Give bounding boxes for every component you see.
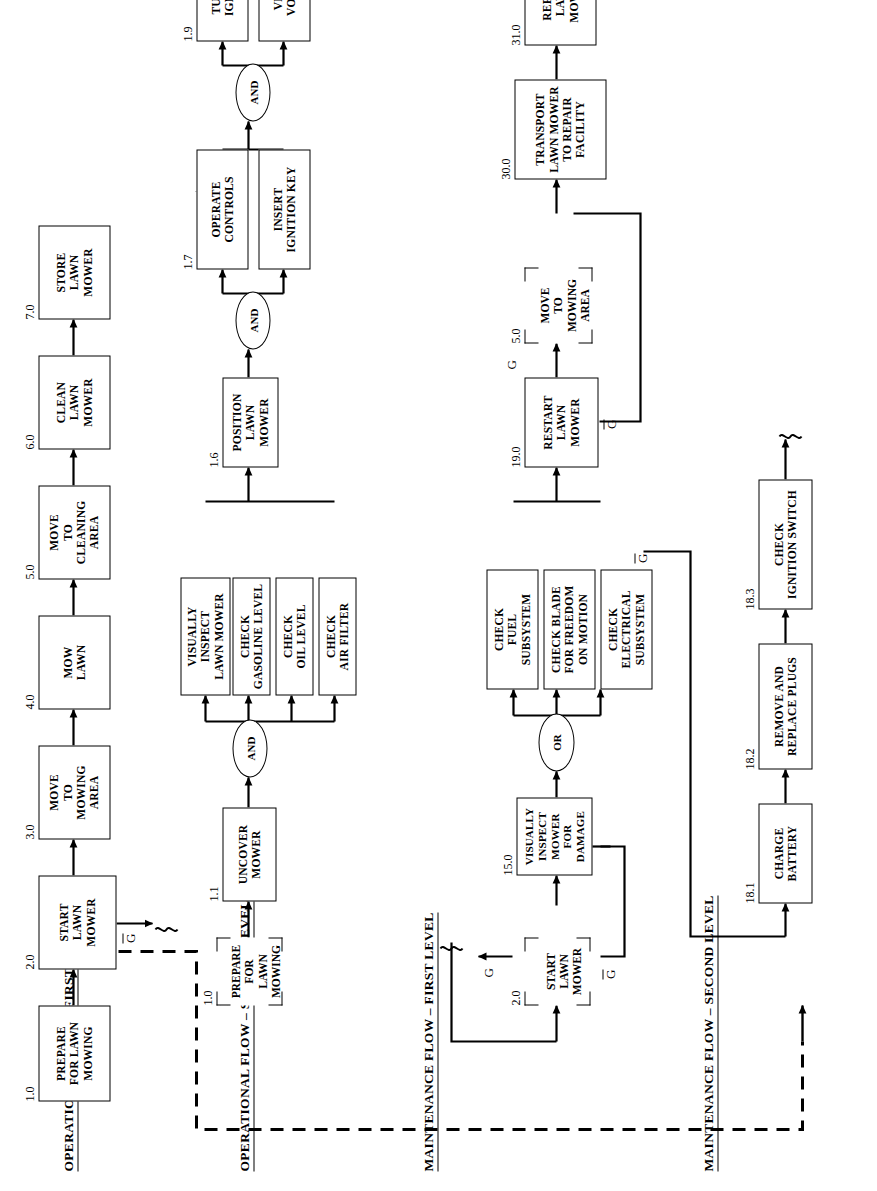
block-text: INSERT IGNITION KEY bbox=[271, 166, 298, 252]
logic-gate-and-3: AND bbox=[235, 63, 270, 121]
block-text: REPAIR LAWN MOWER bbox=[540, 0, 580, 22]
block-text: RESTART LAWN MOWER bbox=[541, 395, 581, 449]
block-check-gasoline-level: CHECK GASOLINE LEVEL bbox=[232, 577, 270, 695]
block-number-1-0: 1.0 bbox=[22, 1086, 37, 1101]
block-text: TRANSPORT LAWN MOWER TO REPAIR FACILITY bbox=[533, 86, 586, 173]
block-move-to-cleaning-area: MOVE TO CLEANING AREA bbox=[38, 485, 110, 579]
block-check-blade-for-freedom-on-motion: CHECK BLADE FOR FREEDOM ON MOTION bbox=[543, 569, 595, 689]
gate-label-g-mt1: G bbox=[480, 968, 496, 977]
block-text: START LAWN MOWER bbox=[544, 947, 584, 994]
block-text: VISUALLY INSPECT LAWN MOWER bbox=[185, 593, 225, 680]
block-number-6-0: 6.0 bbox=[22, 434, 37, 449]
ref-block-prepare-for-lawn-mowing: PREPARE FOR LAWN MOWING bbox=[216, 937, 282, 1005]
block-text: VERIFY VOLTAGE bbox=[271, 0, 298, 15]
block-clean-lawn-mower: CLEAN LAWN MOWER bbox=[38, 355, 110, 449]
block-transport-lawn-mower-to-repair-facility: TRANSPORT LAWN MOWER TO REPAIR FACILITY bbox=[514, 79, 606, 179]
section-title-maintenance-first-level: MAINTENANCE FLOW – FIRST LEVEL bbox=[420, 912, 438, 1171]
block-text: VISUALLY INSPECT MOWER FOR DAMAGE bbox=[522, 807, 586, 864]
block-operate-controls: OPERATE CONTROLS bbox=[196, 149, 248, 269]
block-insert-ignition-key: INSERT IGNITION KEY bbox=[258, 149, 310, 269]
block-uncover-mower: UNCOVER MOWER bbox=[222, 807, 276, 901]
block-text: CHECK GASOLINE LEVEL bbox=[238, 583, 265, 688]
block-text: MOVE TO MOWING AREA bbox=[47, 765, 100, 819]
block-check-ignition-switch: CHECK IGNITION SWITCH bbox=[758, 479, 812, 609]
block-restart-lawn-mower: RESTART LAWN MOWER bbox=[524, 377, 598, 467]
block-text: CHECK FUEL SUBSYSTEM bbox=[492, 593, 532, 664]
block-text: PREPARE FOR LAWN MOWING bbox=[54, 1021, 94, 1084]
block-charge-battery: CHARGE BATTERY bbox=[758, 803, 812, 903]
block-number-31-0: 31.0 bbox=[508, 24, 523, 45]
block-number-op2-1-0: 1.0 bbox=[200, 990, 215, 1005]
block-number-1-7: 1.7 bbox=[180, 254, 195, 269]
ref-block-start-lawn-mower-mt1: START LAWN MOWER bbox=[524, 937, 590, 1005]
block-text: UNCOVER MOWER bbox=[236, 824, 263, 884]
block-turn-on-ignition: TURN ON IGNITION bbox=[196, 0, 248, 41]
block-text: TURN ON IGNITION bbox=[209, 0, 236, 16]
block-text: MOVE TO MOWING AREA bbox=[538, 278, 591, 331]
block-text: START LAWN MOWER bbox=[57, 898, 97, 946]
block-check-oil-level: CHECK OIL LEVEL bbox=[275, 577, 313, 695]
ref-block-move-to-mowing-area: MOVE TO MOWING AREA bbox=[524, 267, 592, 343]
block-text: MOW LAWN bbox=[61, 644, 88, 679]
flow-diagram-canvas: OPERATIONAL FLOW – FIRST LEVEL OPERATION… bbox=[0, 0, 877, 1191]
block-start-lawn-mower-op1: START LAWN MOWER bbox=[38, 875, 116, 969]
block-remove-and-replace-plugs: REMOVE AND REPLACE PLUGS bbox=[758, 643, 812, 769]
block-text: CLEAN LAWN MOWER bbox=[54, 378, 94, 426]
block-mow-lawn: MOW LAWN bbox=[38, 615, 110, 709]
logic-gate-and-2: AND bbox=[235, 291, 270, 349]
block-number-1-6: 1.6 bbox=[206, 452, 221, 467]
block-text: STORE LAWN MOWER bbox=[54, 248, 94, 296]
block-text: REMOVE AND REPLACE PLUGS bbox=[772, 657, 799, 756]
block-move-to-mowing-area: MOVE TO MOWING AREA bbox=[38, 745, 110, 839]
block-text: CHECK OIL LEVEL bbox=[281, 604, 308, 668]
block-text: CHECK IGNITION SWITCH bbox=[772, 490, 799, 599]
block-text: OPERATE CONTROLS bbox=[209, 176, 236, 242]
block-number-19-0: 19.0 bbox=[508, 446, 523, 467]
gate-label-gbar-mt1: G bbox=[602, 969, 618, 979]
block-number-3-0: 3.0 bbox=[22, 824, 37, 839]
block-verify-voltage: VERIFY VOLTAGE bbox=[258, 0, 310, 41]
block-text: POSITION LAWN MOWER bbox=[230, 393, 270, 451]
block-number-2-0: 2.0 bbox=[22, 954, 37, 969]
block-text: MOVE TO CLEANING AREA bbox=[47, 500, 100, 564]
block-store-lawn-mower: STORE LAWN MOWER bbox=[38, 225, 110, 319]
block-position-lawn-mower: POSITION LAWN MOWER bbox=[222, 377, 278, 467]
logic-gate-and-1: AND bbox=[232, 719, 267, 777]
block-number-18-1: 18.1 bbox=[742, 882, 757, 903]
gate-label-gbar-18: G bbox=[634, 553, 650, 563]
block-check-electrical-subsystem: CHECK ELECTRICAL SUBSYSTEM bbox=[600, 569, 652, 689]
block-visually-inspect-mower-for-damage: VISUALLY INSPECT MOWER FOR DAMAGE bbox=[516, 797, 592, 875]
block-number-18-2: 18.2 bbox=[742, 748, 757, 769]
block-repair-lawn-mower: REPAIR LAWN MOWER bbox=[524, 0, 596, 45]
block-text: CHECK BLADE FOR FREEDOM ON MOTION bbox=[549, 585, 589, 673]
block-number-7-0: 7.0 bbox=[22, 304, 37, 319]
block-visually-inspect-lawn-mower: VISUALLY INSPECT LAWN MOWER bbox=[180, 577, 230, 695]
block-number-30-0: 30.0 bbox=[498, 158, 513, 179]
block-number-4-0: 4.0 bbox=[22, 694, 37, 709]
block-number-mt1-5-0: 5.0 bbox=[508, 328, 523, 343]
block-text: CHARGE BATTERY bbox=[772, 825, 799, 881]
block-prepare-for-lawn-mowing: PREPARE FOR LAWN MOWING bbox=[38, 1005, 110, 1101]
block-number-1-1: 1.1 bbox=[206, 886, 221, 901]
block-number-mt1-2-0: 2.0 bbox=[508, 990, 523, 1005]
section-title-maintenance-second-level: MAINTENANCE FLOW – SECOND LEVEL bbox=[700, 895, 718, 1171]
block-number-18-3: 18.3 bbox=[742, 588, 757, 609]
gate-label-gbar-op1: G bbox=[122, 933, 138, 943]
block-text: CHECK AIR FILTER bbox=[324, 602, 351, 670]
gate-label-gbar-19: G bbox=[603, 419, 619, 429]
block-number-1-9: 1.9 bbox=[180, 26, 195, 41]
block-check-air-filter: CHECK AIR FILTER bbox=[318, 577, 356, 695]
block-text: CHECK ELECTRICAL SUBSYSTEM bbox=[606, 590, 646, 668]
block-number-5-0: 5.0 bbox=[22, 564, 37, 579]
gate-label-g-19: G bbox=[503, 360, 519, 369]
logic-gate-or-1: OR bbox=[538, 713, 574, 771]
diagram-rotation-wrapper: OPERATIONAL FLOW – FIRST LEVEL OPERATION… bbox=[0, 0, 877, 1191]
block-number-15-0: 15.0 bbox=[500, 854, 515, 875]
block-check-fuel-subsystem: CHECK FUEL SUBSYSTEM bbox=[486, 569, 538, 689]
